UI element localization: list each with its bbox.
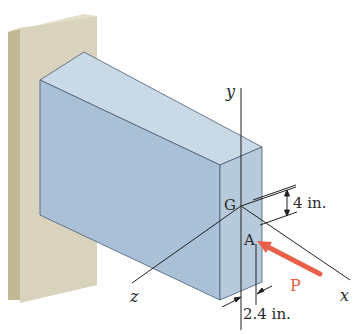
z-axis-label: z [129,287,139,306]
dimension-label-2-4in: 2.4 in. [243,305,291,323]
dimension-label-4in: 4 in. [293,194,327,212]
dimension-4in [285,190,290,216]
y-axis-label: y [225,82,236,101]
beam-diagram: y x z G A P 4 in. 2.4 in. [0,0,359,334]
x-axis-label: x [340,286,349,305]
dimension-extension-lower [260,212,297,225]
centroid-label-g: G [224,196,236,214]
point-label-a: A [243,231,255,249]
load-label-p: P [290,276,301,295]
load-arrow-p [257,241,320,274]
